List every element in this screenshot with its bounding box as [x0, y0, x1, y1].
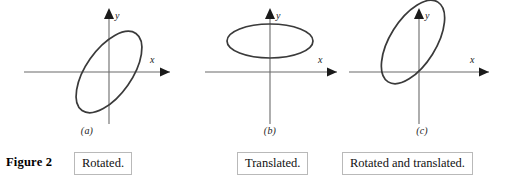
- y-axis-label-a: y: [114, 10, 120, 21]
- x-axis-label-c: x: [469, 54, 475, 65]
- x-axis-arrowhead-icon: [160, 68, 170, 77]
- caption-box-rotated-and-translated: Rotated and translated.: [342, 152, 473, 175]
- plot-b: x y: [185, 0, 355, 130]
- axes-c: [349, 8, 489, 124]
- x-axis-label-b: x: [317, 54, 323, 65]
- plot-c: x y: [337, 0, 507, 130]
- figure-container: x y (a) x y (b): [0, 0, 508, 182]
- ellipse-shape-c: [369, 0, 458, 94]
- x-axis-arrowhead-icon: [479, 68, 489, 77]
- y-axis-label-b: y: [275, 10, 281, 21]
- panel-sublabel-a: (a): [2, 125, 172, 137]
- caption-box-translated: Translated.: [237, 152, 308, 175]
- panel-a: x y (a): [2, 0, 172, 148]
- plot-a: x y: [2, 0, 172, 130]
- panel-sublabel-c: (c): [337, 125, 507, 137]
- panel-sublabel-b: (b): [185, 125, 355, 137]
- y-axis-label-c: y: [424, 10, 430, 21]
- y-axis-arrowhead-icon: [104, 8, 114, 19]
- axes-a: [24, 8, 170, 124]
- x-axis-arrowhead-icon: [327, 68, 337, 77]
- panel-b: x y (b): [185, 0, 355, 148]
- x-axis-label-a: x: [149, 54, 155, 65]
- caption-box-rotated: Rotated.: [74, 152, 132, 175]
- panel-c: x y (c): [337, 0, 507, 148]
- y-axis-arrowhead-icon: [265, 8, 275, 19]
- figure-number-label: Figure 2: [6, 155, 52, 170]
- y-axis-arrowhead-icon: [414, 8, 424, 19]
- caption-row: Figure 2 Rotated. Translated. Rotated an…: [0, 148, 508, 182]
- axes-b: [205, 8, 337, 124]
